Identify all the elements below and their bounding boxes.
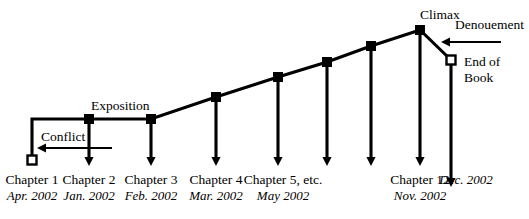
plot-point-marker-point-6 xyxy=(323,58,332,67)
chapter-date: Mar. 2002 xyxy=(189,188,242,203)
plot-node-markers-group xyxy=(28,26,456,165)
end-of-book-line-2: Book xyxy=(464,70,493,85)
plot-point-marker-point-5 xyxy=(274,73,283,82)
chapter-axis-label-3: Chapter 3Feb. 2002 xyxy=(125,172,178,203)
plot-line-group xyxy=(32,30,451,160)
chapter-date: May 2002 xyxy=(244,188,323,203)
annotation-arrows-group xyxy=(37,38,501,153)
chapter-5-drop-arrow-head xyxy=(273,157,282,166)
chapter-axis-label-5: Chapter 5, etc.May 2002 xyxy=(244,172,323,203)
plot-point-marker-point-4 xyxy=(212,93,221,102)
chapter-6-drop-arrow-head xyxy=(322,157,331,166)
chapter-name: Chapter 4 xyxy=(189,172,242,188)
endpoint-marker-end-of-book xyxy=(447,56,456,65)
chapter-date: Dec. 2002 xyxy=(439,172,492,187)
stage-label-denouement: Denouement xyxy=(455,18,524,32)
conflict-arrow-head xyxy=(37,144,46,153)
stage-label-climax: Climax xyxy=(420,8,460,22)
chapter-7-drop-arrow-head xyxy=(366,157,375,166)
chapter-date: Jan. 2002 xyxy=(63,188,116,203)
plot-line xyxy=(32,30,451,160)
stage-label-exposition: Exposition xyxy=(91,99,150,113)
plot-point-marker-exposition xyxy=(85,115,94,124)
chapter-4-drop-arrow-head xyxy=(211,157,220,166)
chapter-date: Nov. 2002 xyxy=(390,188,450,203)
endpoint-marker-start xyxy=(28,156,37,165)
end-of-book-line-1: End of xyxy=(464,54,500,69)
chapter-axis-label-1: Chapter 1Apr. 2002 xyxy=(6,172,59,203)
denouement-arrow-head xyxy=(441,38,450,47)
chapter-name: Chapter 2 xyxy=(63,172,116,188)
chapter-axis-label-7: Dec. 2002 xyxy=(439,172,492,187)
chapter-axis-label-4: Chapter 4Mar. 2002 xyxy=(189,172,242,203)
chapter-date: Feb. 2002 xyxy=(125,188,178,203)
stage-label-conflict: Conflict xyxy=(41,130,85,144)
chapter-name: Chapter 3 xyxy=(125,172,178,188)
end-of-book-label: End of Book xyxy=(464,54,500,86)
chapter-2-drop-arrow-head xyxy=(84,157,93,166)
plot-diagram: ExpositionClimaxDenouementConflict Chapt… xyxy=(0,0,529,219)
plot-point-marker-point-3 xyxy=(147,115,156,124)
chapter-name: Chapter 5, etc. xyxy=(244,172,323,188)
chapter-3-drop-arrow-head xyxy=(146,157,155,166)
plot-point-marker-point-7 xyxy=(367,42,376,51)
chapter-axis-label-2: Chapter 2Jan. 2002 xyxy=(63,172,116,203)
plot-point-marker-climax xyxy=(416,26,425,35)
chapter-12-drop-arrow-head xyxy=(415,157,424,166)
chapter-name: Chapter 1 xyxy=(6,172,59,188)
chapter-date: Apr. 2002 xyxy=(6,188,59,203)
